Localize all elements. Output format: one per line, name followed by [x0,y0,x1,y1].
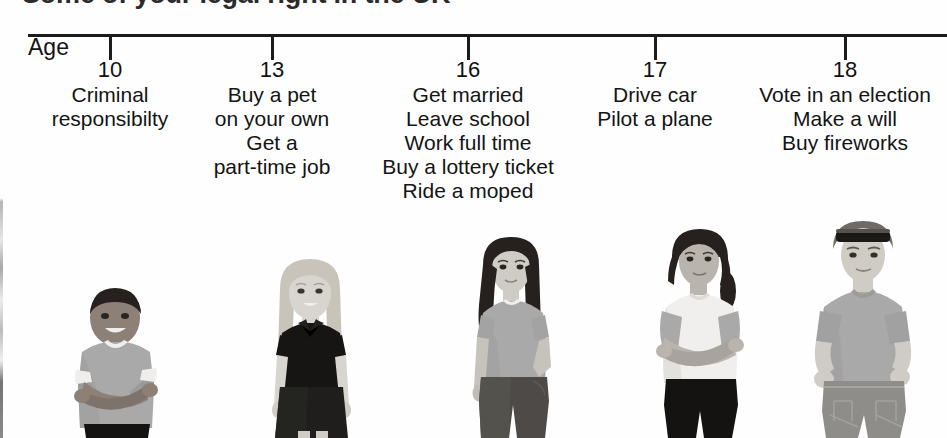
age-column-10: 10Criminalresponsibilty [52,58,169,131]
right-item: responsibilty [52,107,169,131]
right-item: Ride a moped [382,179,554,203]
right-item: on your own [214,107,331,131]
figure-illustrations [0,205,947,438]
infographic-page: Some of your legal right in the UK Age 1… [0,0,947,438]
age-column-18: 18Vote in an electionMake a willBuy fire… [759,58,931,155]
age-number-10: 10 [52,58,169,82]
right-item: Get a [214,131,331,155]
age-number-17: 17 [597,58,713,82]
figure-blonde-girl-black-polo [258,255,362,438]
right-item: Pilot a plane [597,107,713,131]
right-item: Work full time [382,131,554,155]
age-column-16: 16Get marriedLeave schoolWork full timeB… [382,58,554,203]
rights-list-16: Get marriedLeave schoolWork full timeBuy… [382,83,554,203]
page-title: Some of your legal right in the UK [22,0,450,10]
right-item: Get married [382,83,554,107]
right-item: Buy fireworks [759,131,931,155]
age-number-13: 13 [214,58,331,82]
timeline-axis-line [28,34,947,37]
age-column-17: 17Drive carPilot a plane [597,58,713,131]
right-item: Make a will [759,107,931,131]
figure-boy-arms-crossed [60,278,172,438]
figure-long-dark-hair-teen-girl [455,235,563,438]
figure-young-man-sunglasses-on-head [800,215,922,438]
age-number-18: 18 [759,58,931,82]
axis-label-age: Age [28,36,69,59]
age-column-13: 13Buy a peton your ownGet apart-time job [214,58,331,179]
rights-list-10: Criminalresponsibilty [52,83,169,131]
rights-list-13: Buy a peton your ownGet apart-time job [214,83,331,179]
right-item: Buy a pet [214,83,331,107]
right-item: Drive car [597,83,713,107]
right-item: Buy a lottery ticket [382,155,554,179]
right-item: part-time job [214,155,331,179]
right-item: Vote in an election [759,83,931,107]
figure-teen-arms-crossed-white-top [640,225,756,438]
right-item: Criminal [52,83,169,107]
age-number-16: 16 [382,58,554,82]
rights-list-18: Vote in an electionMake a willBuy firewo… [759,83,931,155]
right-item: Leave school [382,107,554,131]
rights-list-17: Drive carPilot a plane [597,83,713,131]
